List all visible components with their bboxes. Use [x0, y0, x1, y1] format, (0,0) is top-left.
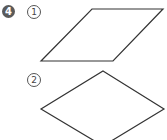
figures [0, 0, 167, 140]
rhombus-figure [41, 71, 164, 140]
parallelogram-figure [41, 9, 163, 61]
